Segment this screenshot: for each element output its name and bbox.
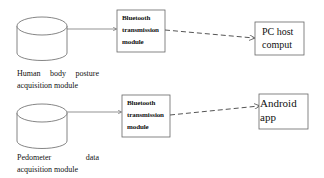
pc-host-text: PC host — [262, 25, 293, 38]
comput-text: comput — [262, 38, 293, 51]
bluetooth-text: Bluetooth — [127, 97, 164, 109]
bluetooth-label-row1: Bluetooth transmission module — [122, 12, 159, 48]
bluetooth-label-row2: Bluetooth transmission module — [127, 97, 164, 133]
cylinder-pedometer — [17, 104, 67, 148]
pc-host-label: PC host comput — [262, 25, 293, 51]
transmission-text: transmission — [122, 24, 159, 36]
module-text: module — [127, 121, 164, 133]
module-text: module — [122, 36, 159, 48]
dashed-connector-row1 — [165, 30, 254, 38]
label-word: posture — [75, 68, 99, 80]
label-word: data — [86, 152, 99, 164]
cylinder-human-body-posture — [17, 17, 67, 60]
pedometer-label: Pedometer data acquisition module — [17, 152, 99, 176]
human-body-posture-label: Human body posture acquisition module — [17, 68, 99, 92]
label-word: Human — [17, 68, 41, 80]
app-text: app — [260, 110, 297, 124]
dashed-connector-row2 — [170, 106, 259, 115]
pedometer-line2: acquisition module — [17, 164, 99, 176]
label-word: Pedometer — [17, 152, 51, 164]
bluetooth-text: Bluetooth — [122, 12, 159, 24]
transmission-text: transmission — [127, 109, 164, 121]
android-text: Android — [260, 96, 297, 110]
human-body-posture-line2: acquisition module — [17, 80, 99, 92]
pedometer-line1: Pedometer data — [17, 152, 99, 164]
label-word: body — [50, 68, 66, 80]
android-app-label: Android app — [260, 96, 297, 124]
human-body-posture-line1: Human body posture — [17, 68, 99, 80]
